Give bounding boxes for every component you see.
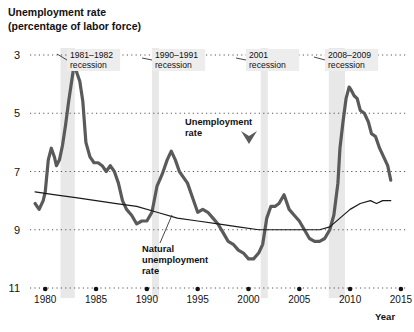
chart-subtitle: (percentage of labor force) xyxy=(8,20,141,32)
unemployment-rate-chart: Unemployment rate (percentage of labor f… xyxy=(0,0,414,332)
x-axis-tick-marker xyxy=(246,287,251,292)
series-label-line: rate xyxy=(185,128,202,138)
series-label-line: unemployment xyxy=(142,255,208,265)
annotation-line-1: 1990–1991 xyxy=(155,50,198,60)
x-axis-tick-marker xyxy=(399,287,404,292)
x-axis-tick-label: 2015 xyxy=(390,294,413,305)
x-axis-tick-marker xyxy=(297,287,302,292)
y-axis-tick-label: 9 xyxy=(14,224,20,236)
annotation-line-1: 1981–1982 xyxy=(70,50,113,60)
annotation-line-1: 2008–2009 xyxy=(328,50,371,60)
series-label-line: Unemployment xyxy=(185,117,252,127)
recession-band xyxy=(261,48,268,298)
x-axis-tick-marker xyxy=(94,287,99,292)
chart-title: Unemployment rate xyxy=(8,6,106,18)
x-axis-tick-label: 2010 xyxy=(339,294,362,305)
y-axis-tick-label: 11 xyxy=(9,282,20,294)
y-axis-tick-label: 5 xyxy=(14,107,20,119)
y-axis-tick-label: 3 xyxy=(14,49,20,61)
x-axis-title: Year xyxy=(375,311,395,322)
x-axis-tick-label: 1985 xyxy=(85,294,108,305)
annotation-line-2: recession xyxy=(249,60,286,70)
x-axis-tick-label: 1995 xyxy=(187,294,210,305)
x-axis-tick-label: 1990 xyxy=(136,294,159,305)
annotation-line-2: recession xyxy=(155,60,192,70)
x-axis-tick-marker xyxy=(145,287,150,292)
series-label-line: Natural xyxy=(142,244,174,254)
y-axis-tick-label: 7 xyxy=(14,166,20,178)
x-axis-tick-label: 2005 xyxy=(288,294,311,305)
x-axis-tick-label: 2000 xyxy=(237,294,260,305)
x-axis-tick-marker xyxy=(43,287,48,292)
recession-band xyxy=(329,48,345,298)
x-axis-tick-label: 1980 xyxy=(34,294,57,305)
annotation-line-2: recession xyxy=(328,60,365,70)
annotation-line-2: recession xyxy=(70,60,107,70)
x-axis-tick-marker xyxy=(348,287,353,292)
chart-canvas: Unemployment rate (percentage of labor f… xyxy=(0,0,414,332)
series-label-line: rate xyxy=(142,266,159,276)
annotation-line-1: 2001 xyxy=(249,50,268,60)
x-axis-tick-marker xyxy=(195,287,200,292)
